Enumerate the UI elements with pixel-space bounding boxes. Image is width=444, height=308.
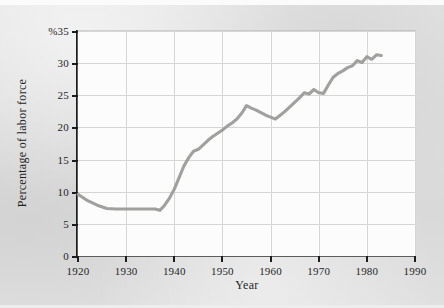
y-axis-tick-label: 20 [58, 121, 69, 133]
y-axis-tick-label: 15 [58, 154, 69, 166]
figure-container: Percentage of labor force Year 051015202… [0, 0, 444, 308]
y-axis-tick-label: 10 [58, 186, 69, 198]
x-axis-tick-label: 1990 [404, 265, 427, 277]
x-axis-tick-label: 1980 [355, 265, 378, 277]
x-axis-tick-label: 1970 [307, 265, 330, 277]
x-axis-tick [318, 256, 320, 262]
x-axis-tick [125, 256, 127, 262]
x-axis-tick-label: 1950 [211, 265, 234, 277]
y-axis-title: Percentage of labor force [15, 79, 30, 207]
x-axis-tick [366, 256, 368, 262]
x-axis-tick [221, 256, 223, 262]
x-axis-tick [77, 256, 79, 262]
plot-area: 051015202530%35 192019301940195019601970… [78, 31, 415, 256]
x-axis-tick-label: 1940 [163, 265, 186, 277]
x-axis-tick [270, 256, 272, 262]
y-axis-tick-label: 25 [58, 89, 69, 101]
y-axis-tick-label: 0 [63, 250, 69, 262]
x-axis-tick-label: 1920 [67, 265, 90, 277]
x-axis-tick [173, 256, 175, 262]
y-axis-tick-label: 5 [63, 218, 69, 230]
page-top-edge [0, 0, 444, 5]
x-axis-tick-label: 1930 [115, 265, 138, 277]
series-line-chart [78, 31, 415, 256]
gridline-vertical [415, 31, 416, 256]
x-axis-tick [414, 256, 416, 262]
y-axis-tick-label: 30 [58, 57, 69, 69]
y-axis-tick-label: %35 [48, 25, 69, 37]
x-axis-title: Year [235, 278, 258, 293]
series-line-percentage-of-labor-force [78, 55, 381, 211]
x-axis-tick-label: 1960 [259, 265, 282, 277]
